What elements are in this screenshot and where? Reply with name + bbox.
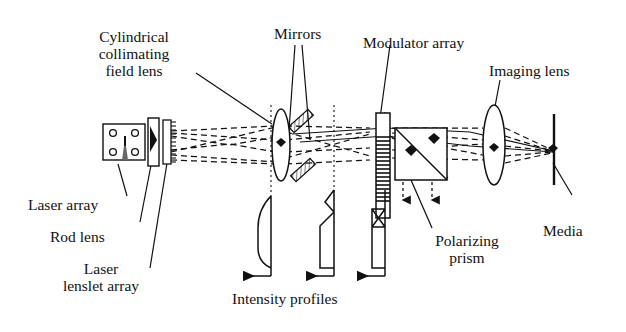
leader-media bbox=[553, 163, 572, 195]
laser-array bbox=[103, 124, 145, 160]
leader-mirror-upper bbox=[289, 45, 295, 130]
label-lenslet-line1: Laser bbox=[46, 260, 156, 277]
label-polarizing-line2: prism bbox=[414, 249, 520, 266]
leader-rod-lens bbox=[140, 160, 152, 222]
label-lenslet-line2: lenslet array bbox=[46, 277, 156, 294]
label-modulator-array: Modulator array bbox=[363, 34, 464, 51]
media bbox=[548, 114, 558, 185]
intensity-profile-1 bbox=[243, 196, 271, 276]
label-imaging-lens: Imaging lens bbox=[489, 62, 570, 79]
label-media: Media bbox=[543, 222, 583, 239]
polarizing-prism bbox=[395, 128, 447, 180]
diagram-canvas: Cylindrical collimating field lens Mirro… bbox=[0, 0, 626, 332]
laser-lenslet-array bbox=[163, 120, 176, 164]
label-cylindrical-collimating-field-lens: Cylindrical collimating field lens bbox=[64, 28, 204, 79]
label-polarizing-prism: Polarizing prism bbox=[414, 232, 520, 266]
leader-mirror-lower bbox=[302, 45, 310, 140]
leader-cylindrical-lens bbox=[196, 73, 272, 124]
leader-laser-lenslet-array bbox=[150, 163, 167, 268]
imaging-lens bbox=[483, 105, 505, 185]
intensity-profile-2 bbox=[306, 190, 334, 276]
label-cylindrical-line1: Cylindrical bbox=[64, 28, 204, 45]
label-laser-lenslet-array: Laser lenslet array bbox=[46, 260, 156, 294]
label-polarizing-line1: Polarizing bbox=[414, 232, 520, 249]
cylindrical-collimating-field-lens bbox=[272, 109, 290, 181]
label-cylindrical-line2: collimating bbox=[64, 45, 204, 62]
label-rod-lens: Rod lens bbox=[50, 228, 105, 245]
prism-output-arrows bbox=[403, 182, 432, 200]
label-laser-array: Laser array bbox=[28, 196, 98, 213]
label-intensity-profiles: Intensity profiles bbox=[232, 290, 337, 307]
leader-laser-array bbox=[118, 164, 127, 196]
rod-lens bbox=[148, 118, 159, 166]
label-mirrors: Mirrors bbox=[274, 25, 321, 42]
mirror-lower bbox=[291, 158, 316, 181]
modulator-array bbox=[376, 113, 390, 218]
label-cylindrical-line3: field lens bbox=[64, 62, 204, 79]
